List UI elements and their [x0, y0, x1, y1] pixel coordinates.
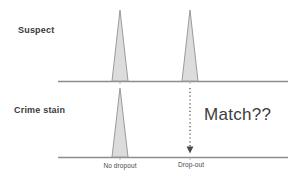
panel-label-crime-stain: Crime stain	[14, 106, 65, 115]
peak-suspect-drop-out	[182, 10, 198, 81]
match-question-annotation: Match??	[204, 106, 271, 123]
peak-crime-stain-no-dropout	[112, 88, 128, 157]
axis-label-drop-out: Drop-out	[166, 162, 216, 169]
axis-label-no-dropout: No dropout	[95, 163, 145, 170]
peak-suspect-no-dropout	[112, 10, 128, 81]
dropout-arrow	[187, 88, 194, 154]
panel-crime-stain	[58, 88, 288, 160]
panel-label-suspect: Suspect	[18, 26, 54, 35]
dropout-figure: Suspect Crime stain No dropout Drop-out …	[0, 0, 299, 179]
dropout-arrow-head	[187, 147, 194, 154]
panel-suspect	[58, 10, 288, 84]
